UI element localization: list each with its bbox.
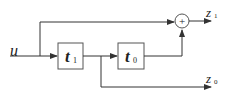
output-subscript-z1: 1	[214, 12, 218, 20]
block-t0: t 0	[118, 43, 144, 69]
output-subscript-z0: 0	[214, 78, 218, 86]
plus-icon: +	[179, 15, 185, 27]
block-diagram: u t 1 t 0 + z 1 z 0	[0, 0, 231, 95]
block-t0-subscript: 0	[133, 56, 137, 65]
t0-to-summer-path	[144, 30, 182, 56]
block-t1: t 1	[58, 43, 83, 69]
output-label-z1: z	[205, 5, 211, 20]
summing-junction: +	[175, 14, 189, 28]
output-label-z0: z	[205, 71, 211, 86]
block-t1-subscript: 1	[73, 56, 77, 65]
